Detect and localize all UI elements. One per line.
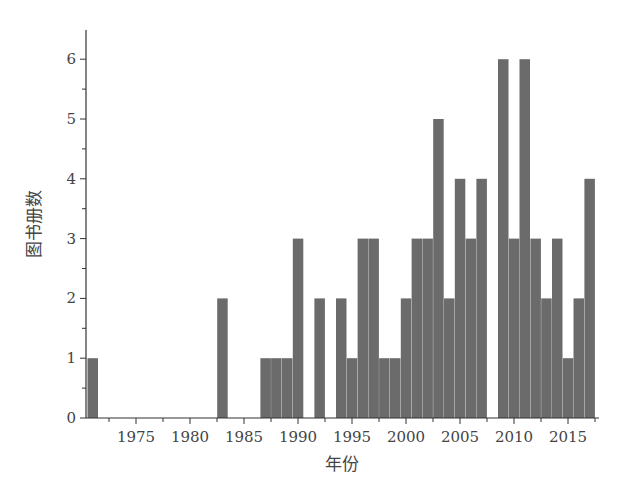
bar-1996 — [358, 239, 369, 418]
x-tick-label: 2015 — [549, 428, 587, 446]
y-tick-label: 3 — [66, 230, 76, 248]
bar-2001 — [412, 239, 423, 418]
y-tick-label: 5 — [66, 110, 76, 128]
bar-1989 — [282, 358, 293, 418]
bar-2013 — [541, 298, 552, 418]
bar-1983 — [217, 298, 228, 418]
y-tick-label: 4 — [66, 170, 76, 188]
bar-2004 — [444, 298, 455, 418]
bar-2009 — [498, 59, 509, 418]
bar-2003 — [433, 119, 444, 418]
bar-chart: 0123456 19751980198519901995200020052010… — [0, 0, 624, 499]
y-tick-label: 0 — [66, 409, 76, 427]
y-axis-label: 图书册数 — [24, 190, 44, 258]
bar-1995 — [347, 358, 358, 418]
x-tick-label: 1980 — [171, 428, 209, 446]
bar-1987 — [260, 358, 271, 418]
y-tick-label: 6 — [66, 50, 76, 68]
bar-2010 — [509, 239, 520, 418]
x-tick-label: 2005 — [441, 428, 479, 446]
bar-2006 — [466, 239, 477, 418]
bar-1997 — [368, 239, 379, 418]
x-tick-label: 2010 — [495, 428, 533, 446]
bar-2017 — [584, 179, 595, 418]
bars — [88, 59, 595, 418]
x-axis-label: 年份 — [325, 454, 359, 474]
bar-2002 — [422, 239, 433, 418]
bar-2005 — [455, 179, 466, 418]
bar-2007 — [476, 179, 487, 418]
x-tick-label: 1985 — [225, 428, 263, 446]
x-tick-label: 1975 — [117, 428, 155, 446]
bar-2012 — [530, 239, 541, 418]
bar-1971 — [88, 358, 99, 418]
bar-2014 — [552, 239, 563, 418]
y-ticks: 0123456 — [66, 50, 86, 427]
bar-1994 — [336, 298, 347, 418]
x-tick-label: 1995 — [333, 428, 371, 446]
bar-1990 — [293, 239, 304, 418]
bar-1999 — [390, 358, 401, 418]
x-tick-label: 1990 — [279, 428, 317, 446]
y-tick-label: 1 — [66, 349, 76, 367]
x-ticks: 197519801985199019952000200520102015 — [109, 418, 595, 446]
bar-1998 — [379, 358, 390, 418]
bar-2000 — [401, 298, 412, 418]
x-tick-label: 2000 — [387, 428, 425, 446]
bar-2015 — [563, 358, 574, 418]
bar-1992 — [314, 298, 325, 418]
y-tick-label: 2 — [66, 289, 76, 307]
bar-1988 — [271, 358, 282, 418]
bar-2016 — [574, 298, 585, 418]
bar-2011 — [520, 59, 531, 418]
